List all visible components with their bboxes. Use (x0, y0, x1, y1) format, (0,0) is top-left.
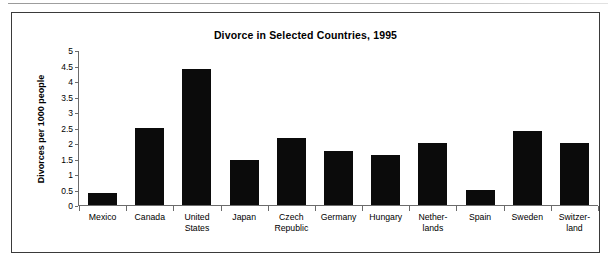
bar-slot (315, 50, 362, 205)
x-axis-category-label: Nether-lands (409, 212, 456, 233)
bar-series (79, 50, 598, 205)
y-axis-tick-mark (75, 113, 78, 114)
y-axis-tick-mark (75, 160, 78, 161)
y-axis-tick-mark (75, 98, 78, 99)
x-axis-category-label-line: lands (409, 223, 456, 234)
bar-japan (230, 160, 259, 205)
x-axis-tick-mark (173, 206, 174, 211)
x-axis-category-label: Sweden (504, 212, 551, 233)
bar-slot (126, 50, 173, 205)
x-axis-category-label-line: Hungary (362, 212, 409, 223)
x-axis-tick-mark (551, 206, 552, 211)
bar-slot (504, 50, 551, 205)
x-axis-category-label: Spain (457, 212, 504, 233)
bar-slot (551, 50, 598, 205)
x-axis-category-label-line: Sweden (504, 212, 551, 223)
x-axis-category-label: Japan (221, 212, 268, 233)
plot-area: 00.511.522.533.544.55 MexicoCanadaUnited… (78, 51, 598, 206)
bar-canada (135, 128, 164, 206)
x-axis-category-label: Switzer-land (551, 212, 598, 233)
x-axis-category-label-line: United (173, 212, 220, 223)
x-axis-tick-mark (268, 206, 269, 211)
bar-netherlands (418, 143, 447, 205)
x-axis-tick-mark (315, 206, 316, 211)
bar-slot (362, 50, 409, 205)
bar-mexico (88, 193, 117, 205)
chart-title: Divorce in Selected Countries, 1995 (12, 29, 599, 41)
x-axis-category-label-line: Switzer- (551, 212, 598, 223)
bar-czech-republic (277, 138, 306, 205)
x-axis-category-label-line: Czech (268, 212, 315, 223)
x-axis-tick-mark (504, 206, 505, 211)
x-axis-tick-mark (409, 206, 410, 211)
y-axis-tick-mark (75, 67, 78, 68)
x-axis-category-label-line: Spain (457, 212, 504, 223)
y-axis-tick-mark (75, 129, 78, 130)
x-axis-tick-marks (79, 206, 598, 211)
y-axis-title: Divorces per 1000 people (34, 51, 48, 206)
x-axis-category-label: Canada (126, 212, 173, 233)
x-axis-tick-mark (362, 206, 363, 211)
x-axis-category-label: Hungary (362, 212, 409, 233)
y-axis-tick-mark (75, 82, 78, 83)
y-axis-tick-mark (75, 175, 78, 176)
x-axis-category-label-line: Japan (221, 212, 268, 223)
x-axis-tick-mark (126, 206, 127, 211)
y-axis-tick-mark (75, 206, 78, 207)
bar-germany (324, 151, 353, 205)
y-axis-tick-mark (75, 191, 78, 192)
x-axis-category-labels: MexicoCanadaUnitedStatesJapanCzechRepubl… (79, 212, 598, 233)
x-axis-category-label-line: Canada (126, 212, 173, 223)
x-axis-category-label-line: land (551, 223, 598, 234)
bar-hungary (371, 155, 400, 205)
x-axis-category-label-line: Nether- (409, 212, 456, 223)
x-axis-tick-mark (456, 206, 457, 211)
x-axis-tick-mark (79, 206, 80, 211)
bar-slot (173, 50, 220, 205)
bar-slot (79, 50, 126, 205)
bar-switzerland (560, 143, 589, 205)
y-axis-tick-mark (75, 51, 78, 52)
x-axis-category-label: Germany (315, 212, 362, 233)
x-axis-tick-mark (598, 206, 599, 211)
top-divider-rule (8, 3, 608, 4)
bar-slot (409, 50, 456, 205)
chart-figure-box: Divorce in Selected Countries, 1995 Divo… (11, 12, 600, 253)
x-axis-category-label-line: Mexico (79, 212, 126, 223)
x-axis-category-label-line: Germany (315, 212, 362, 223)
x-axis-category-label: UnitedStates (173, 212, 220, 233)
x-axis-category-label-line: States (173, 223, 220, 234)
bar-slot (221, 50, 268, 205)
y-axis-title-text: Divorces per 1000 people (36, 74, 46, 183)
bar-sweden (513, 131, 542, 205)
bar-slot (268, 50, 315, 205)
x-axis-tick-mark (221, 206, 222, 211)
bar-spain (466, 190, 495, 206)
bar-slot (457, 50, 504, 205)
x-axis-category-label: CzechRepublic (268, 212, 315, 233)
y-axis-tick-mark (75, 144, 78, 145)
bar-united-states (182, 69, 211, 205)
x-axis-category-label: Mexico (79, 212, 126, 233)
x-axis-category-label-line: Republic (268, 223, 315, 234)
